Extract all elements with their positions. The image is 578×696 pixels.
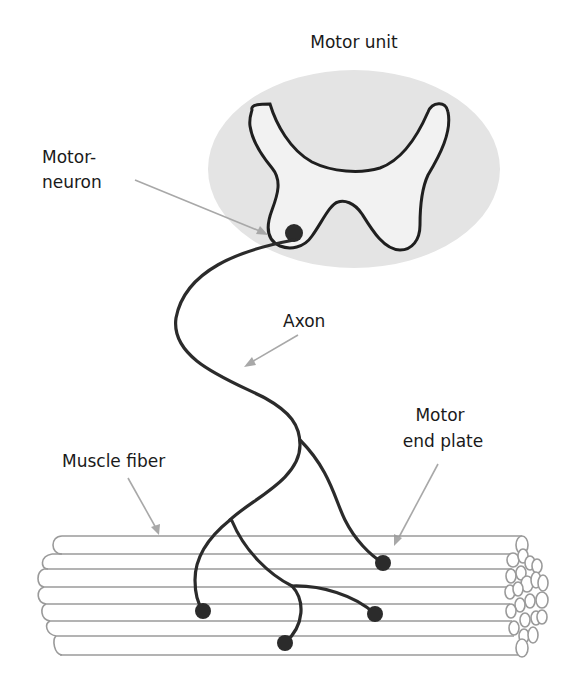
muscle-fiber-pointer — [128, 478, 156, 528]
motor-neuron-label-line2: neuron — [42, 172, 102, 192]
motor-unit-diagram: Motor unit Motor- neuron Axon Muscle fib… — [0, 0, 578, 696]
motor-end-plate-label-line2: end plate — [403, 431, 483, 451]
axon-pointer — [250, 335, 298, 363]
axon-main — [176, 240, 300, 520]
diagram-title: Motor unit — [310, 32, 398, 52]
muscle-fiber-bundle — [38, 536, 548, 657]
axon-branch-right — [300, 440, 383, 563]
muscle-fiber-label: Muscle fiber — [62, 451, 165, 471]
axon-subbranch-right — [292, 586, 375, 614]
motor-end-plate-terminal — [375, 555, 391, 571]
spinal-cord-cross-section — [208, 70, 500, 268]
motor-neuron-label-line1: Motor- — [42, 147, 96, 167]
motor-end-plate-label-line1: Motor — [415, 405, 464, 425]
axon — [176, 240, 383, 643]
axon-terminal — [367, 606, 383, 622]
axon-terminal — [277, 635, 293, 651]
axon-label: Axon — [283, 311, 325, 331]
axon-terminal — [195, 603, 211, 619]
motor-end-plate-pointer — [398, 464, 438, 539]
muscle-fiber-arrowhead-icon — [151, 524, 160, 535]
axon-arrowhead-icon — [244, 357, 256, 367]
fiber-cross-sections — [505, 536, 548, 657]
axon-branch-left — [195, 520, 230, 611]
axon-branch-middle — [232, 521, 301, 643]
